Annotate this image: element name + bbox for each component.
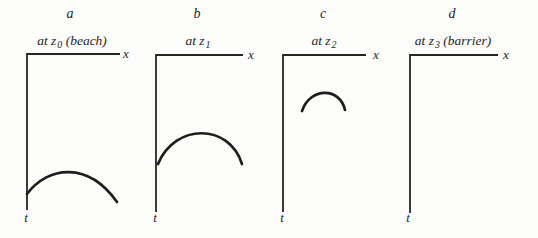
position-label-prefix: at z bbox=[37, 33, 57, 48]
panel-d: d at z3 (barrier) x t bbox=[406, 6, 509, 225]
panel-d-x-axis-label: x bbox=[502, 47, 509, 62]
position-label-suffix: (barrier) bbox=[440, 33, 492, 48]
panel-a-axes bbox=[27, 54, 120, 210]
panel-a: a at z0 (beach) x t bbox=[24, 6, 129, 225]
panel-c-wave-pulse-curve bbox=[302, 93, 345, 111]
panel-d-title: d bbox=[449, 6, 457, 21]
position-label-prefix: at z bbox=[311, 33, 331, 48]
panel-c-position-label: at z2 bbox=[311, 33, 336, 50]
panel-d-axes bbox=[410, 55, 498, 213]
panel-b-position-label: at z1 bbox=[185, 33, 210, 50]
panel-c-title: c bbox=[320, 6, 327, 21]
panel-b-title: b bbox=[194, 6, 201, 21]
position-label-subscript: 1 bbox=[206, 39, 211, 50]
panel-a-position-label: at z0 (beach) bbox=[37, 33, 107, 50]
position-label-prefix: at z bbox=[185, 33, 205, 48]
panel-a-title: a bbox=[67, 6, 74, 21]
panel-c-t-axis-label: t bbox=[280, 210, 284, 225]
panel-b-t-axis-label: t bbox=[153, 210, 157, 225]
figure-page: a at z0 (beach) x t b at z1 x t c at z2 … bbox=[0, 0, 538, 238]
panel-b: b at z1 x t bbox=[153, 6, 254, 225]
panel-d-position-label: at z3 (barrier) bbox=[415, 33, 492, 50]
figure-canvas: a at z0 (beach) x t b at z1 x t c at z2 … bbox=[0, 0, 538, 238]
panel-b-wave-pulse-curve bbox=[158, 133, 242, 164]
panel-a-t-axis-label: t bbox=[24, 210, 28, 225]
panel-c-axes bbox=[283, 55, 366, 212]
position-label-prefix: at z bbox=[415, 33, 435, 48]
position-label-subscript: 2 bbox=[332, 39, 337, 50]
panel-a-x-axis-label: x bbox=[122, 46, 129, 61]
panel-a-wave-pulse-curve bbox=[27, 172, 117, 202]
position-label-suffix: (beach) bbox=[62, 33, 107, 48]
panel-c: c at z2 x t bbox=[280, 6, 379, 225]
panel-c-x-axis-label: x bbox=[372, 47, 379, 62]
panel-d-t-axis-label: t bbox=[406, 210, 410, 225]
panel-b-x-axis-label: x bbox=[247, 47, 254, 62]
